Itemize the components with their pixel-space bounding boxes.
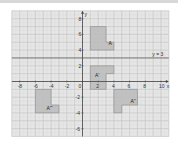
shape-label: A' bbox=[95, 72, 99, 78]
x-tick-label: 2 bbox=[96, 83, 99, 89]
shape-label: A''' bbox=[46, 105, 52, 111]
y-tick-label: -4 bbox=[76, 110, 81, 116]
x-tick-label: 4 bbox=[112, 83, 115, 89]
x-tick-label: 0 bbox=[79, 83, 82, 89]
mirror-line-label: y = 3 bbox=[152, 51, 163, 57]
x-tick-label: -6 bbox=[33, 83, 38, 89]
x-tick-label: 6 bbox=[128, 83, 131, 89]
y-tick-label: 6 bbox=[79, 31, 82, 37]
x-tick-label: 8 bbox=[143, 83, 146, 89]
shape-label: A'' bbox=[130, 98, 135, 104]
x-tick-label: -8 bbox=[18, 83, 23, 89]
y-tick-label: 2 bbox=[79, 63, 82, 69]
x-tick-label: -4 bbox=[49, 83, 54, 89]
y-tick-label: -6 bbox=[76, 126, 81, 132]
y-tick-label: 4 bbox=[79, 47, 82, 53]
x-tick-label: 10 bbox=[159, 83, 165, 89]
y-tick-label: 8 bbox=[79, 16, 82, 22]
x-tick-label: -2 bbox=[65, 83, 70, 89]
y-tick-label: -2 bbox=[76, 94, 81, 100]
coordinate-grid: AA'A''A'''y = 3xy-8-6-4-202468108642-2-4… bbox=[0, 0, 178, 147]
x-axis-label: x bbox=[167, 83, 170, 89]
